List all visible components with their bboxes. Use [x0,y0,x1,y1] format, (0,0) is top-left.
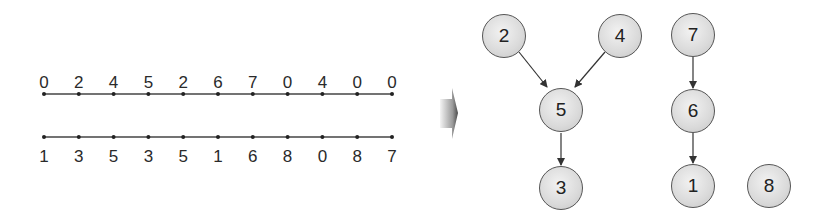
bottom-label: 6 [243,148,263,165]
bottom-label: 1 [208,148,228,165]
edge-4-to-5 [575,52,605,87]
bottom-label: 8 [278,148,298,165]
top-label: 7 [243,74,263,91]
top-label: 4 [312,74,332,91]
diagram-canvas: 0 2 4 5 2 6 7 0 4 0 0 1 3 5 3 5 1 6 8 0 … [0,0,826,217]
bottom-label: 0 [312,148,332,165]
top-label: 0 [382,74,402,91]
bottom-number-line [42,135,394,139]
graph-node-8: 8 [747,164,791,208]
graph-node-6: 6 [671,89,715,133]
graph-node-2: 2 [482,14,526,58]
top-label: 0 [34,74,54,91]
graph-node-5: 5 [539,88,583,132]
bottom-label: 7 [382,148,402,165]
top-label: 6 [208,74,228,91]
bottom-label: 8 [347,148,367,165]
top-label: 2 [69,74,89,91]
top-label: 4 [104,74,124,91]
graph-node-3: 3 [539,166,583,210]
top-number-line [42,92,394,96]
top-label: 0 [347,74,367,91]
graph-node-4: 4 [598,14,642,58]
bottom-label: 1 [34,148,54,165]
bottom-label: 3 [138,148,158,165]
graph-node-1: 1 [671,164,715,208]
bottom-label: 5 [104,148,124,165]
bottom-label: 3 [69,148,89,165]
bottom-label: 5 [173,148,193,165]
graph-node-7: 7 [671,13,715,57]
top-label: 5 [138,74,158,91]
right-arrow-icon [440,88,458,139]
top-label: 2 [173,74,193,91]
top-label: 0 [278,74,298,91]
edge-2-to-5 [519,52,547,87]
